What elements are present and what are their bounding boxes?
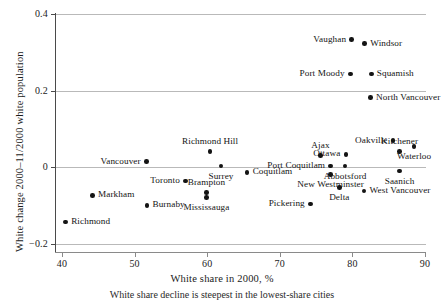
plot-area: VaughanWindsorPort MoodySquamishNorth Va… xyxy=(55,14,426,252)
gridline-y xyxy=(55,14,426,15)
data-point[interactable] xyxy=(362,189,367,194)
data-point[interactable] xyxy=(397,169,402,174)
data-point-label: Vaughan xyxy=(313,35,346,44)
x-tick-label: 80 xyxy=(347,258,357,269)
data-point-label: Ottawa xyxy=(313,150,340,159)
data-point[interactable] xyxy=(208,149,213,154)
data-point[interactable] xyxy=(368,95,373,100)
gridline-y xyxy=(55,167,426,168)
data-point[interactable] xyxy=(349,37,354,42)
data-point[interactable] xyxy=(412,144,417,149)
data-point-label: North Vancouver xyxy=(376,93,440,102)
data-point[interactable] xyxy=(344,152,349,157)
data-point[interactable] xyxy=(245,170,250,175)
data-point[interactable] xyxy=(337,185,342,190)
data-point-label: Mississauga xyxy=(183,203,229,212)
x-axis-spine xyxy=(55,252,426,253)
x-tick-label: 60 xyxy=(202,258,212,269)
data-point-label: Port Moody xyxy=(300,69,345,78)
data-point[interactable] xyxy=(204,190,209,195)
data-point-label: Coquitlam xyxy=(253,168,293,177)
data-point-label: Squamish xyxy=(377,69,414,78)
y-tick-label: −0.2 xyxy=(0,238,55,249)
data-point[interactable] xyxy=(369,72,374,77)
data-point-label: Burnaby xyxy=(152,201,184,210)
data-point-label: Delta xyxy=(329,193,349,202)
x-tick-mark xyxy=(62,252,63,257)
y-tick-label: 0 xyxy=(0,161,55,172)
data-point[interactable] xyxy=(328,172,333,177)
data-point[interactable] xyxy=(144,159,149,164)
data-point-label: Pickering xyxy=(269,200,305,209)
x-tick-label: 50 xyxy=(129,258,139,269)
data-point-label: New Westminster xyxy=(297,180,364,189)
x-tick-mark xyxy=(280,252,281,257)
x-tick-label: 70 xyxy=(275,258,285,269)
data-point-label: Richmond Hill xyxy=(182,137,238,146)
data-point-label: Brampton xyxy=(188,178,226,187)
data-point-label: Saanich xyxy=(385,177,415,186)
y-tick-label: 0.4 xyxy=(0,8,55,19)
data-point-label: Windsor xyxy=(370,39,402,48)
figure-caption: White share decline is steepest in the l… xyxy=(0,289,444,300)
data-point[interactable] xyxy=(204,195,209,200)
data-point-label: Waterloo xyxy=(397,152,431,161)
data-point[interactable] xyxy=(362,41,367,46)
data-point-label: West Vancouver xyxy=(370,186,431,195)
x-tick-mark xyxy=(425,252,426,257)
data-point-label: Richmond xyxy=(71,218,110,227)
data-point[interactable] xyxy=(308,202,313,207)
x-tick-label: 90 xyxy=(420,258,430,269)
data-point[interactable] xyxy=(90,193,95,198)
x-tick-mark xyxy=(207,252,208,257)
data-point-label: Toronto xyxy=(150,177,180,186)
gridline-y xyxy=(55,91,426,92)
data-point[interactable] xyxy=(63,220,68,225)
x-tick-mark xyxy=(135,252,136,257)
y-axis-title: White change 2000–11/2000 white populati… xyxy=(14,51,25,252)
data-point-label: Markham xyxy=(98,191,134,200)
x-tick-mark xyxy=(352,252,353,257)
data-point-label: Vancouver xyxy=(101,157,141,166)
data-point[interactable] xyxy=(145,203,150,208)
x-tick-label: 40 xyxy=(57,258,67,269)
data-point[interactable] xyxy=(348,72,353,77)
x-axis-title: White share in 2000, % xyxy=(0,273,444,284)
gridline-y xyxy=(55,244,426,245)
y-tick-label: 0.2 xyxy=(0,85,55,96)
